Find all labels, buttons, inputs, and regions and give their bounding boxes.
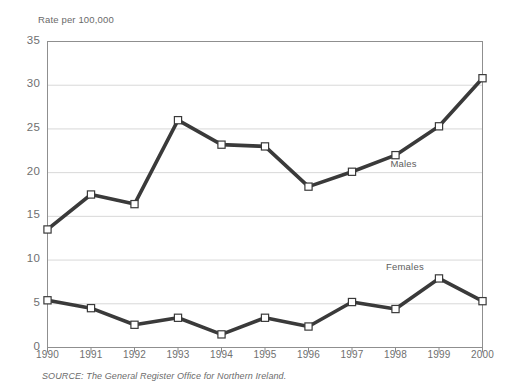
data-point-marker — [435, 275, 442, 282]
y-tick-label: 5 — [14, 296, 40, 308]
data-point-marker — [87, 305, 94, 312]
x-tick-label: 1997 — [332, 349, 372, 360]
x-tick-label: 1992 — [115, 349, 155, 360]
x-tick-label: 1996 — [289, 349, 329, 360]
data-point-marker — [261, 314, 268, 321]
chart-figure: Rate per 100,000 05101520253035 19901991… — [0, 0, 505, 389]
y-tick-label: 35 — [14, 34, 40, 46]
data-point-marker — [131, 321, 138, 328]
x-tick-label: 2000 — [463, 349, 503, 360]
data-point-marker — [348, 168, 355, 175]
source-note: SOURCE: The General Register Office for … — [42, 371, 286, 381]
series-line-males — [48, 78, 483, 229]
data-point-marker — [261, 143, 268, 150]
data-point-marker — [174, 314, 181, 321]
y-tick-label: 25 — [14, 121, 40, 133]
y-tick-label: 20 — [14, 165, 40, 177]
x-tick-label: 1991 — [71, 349, 111, 360]
y-tick-label: 15 — [14, 208, 40, 220]
data-point-marker — [218, 331, 225, 338]
data-point-marker — [44, 226, 51, 233]
x-tick-label: 1995 — [245, 349, 285, 360]
data-series-layer — [44, 75, 486, 338]
y-tick-label: 10 — [14, 252, 40, 264]
data-point-marker — [87, 191, 94, 198]
series-annotation-females: Females — [386, 261, 424, 272]
data-point-marker — [218, 141, 225, 148]
x-tick-label: 1993 — [158, 349, 198, 360]
data-point-marker — [348, 298, 355, 305]
x-tick-label: 1999 — [419, 349, 459, 360]
line-chart-plot — [0, 0, 505, 389]
data-point-marker — [435, 123, 442, 130]
data-point-marker — [44, 297, 51, 304]
series-annotation-males: Males — [390, 158, 416, 169]
x-tick-label: 1998 — [376, 349, 416, 360]
plot-area-border — [48, 42, 483, 348]
data-point-marker — [392, 305, 399, 312]
data-point-marker — [174, 117, 181, 124]
x-tick-label: 1990 — [28, 349, 68, 360]
data-point-marker — [305, 323, 312, 330]
data-point-marker — [131, 201, 138, 208]
series-line-females — [48, 278, 483, 334]
x-tick-label: 1994 — [202, 349, 242, 360]
y-tick-label: 30 — [14, 77, 40, 89]
data-point-marker — [479, 298, 486, 305]
data-point-marker — [305, 183, 312, 190]
data-point-marker — [479, 75, 486, 82]
